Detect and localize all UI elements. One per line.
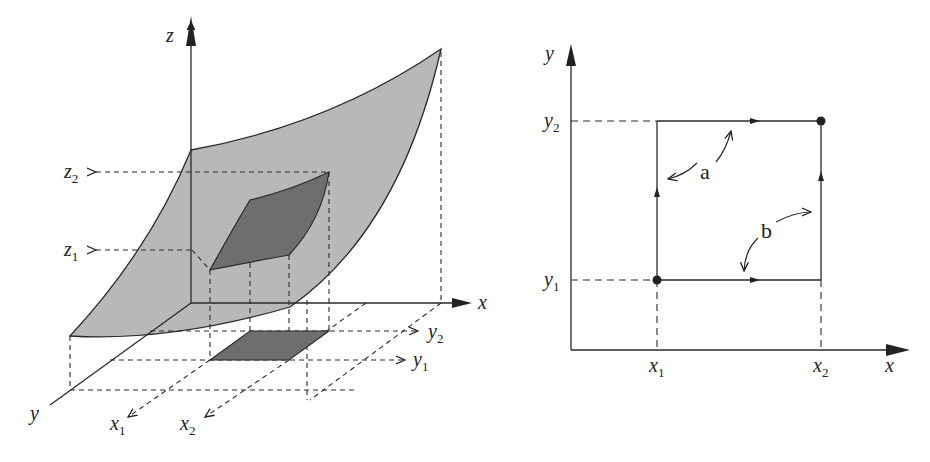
path-a-arrow-horizontal <box>750 118 760 124</box>
end-point <box>817 117 826 126</box>
y-axis-label: y <box>28 402 39 425</box>
y-axis-arrowhead <box>566 44 576 66</box>
label-y1: y1 <box>411 348 428 374</box>
x-axis-arrowhead <box>452 298 472 308</box>
label-b: b <box>761 218 772 243</box>
right-panel-xy-plane: a b y x y2 y1 x1 x2 <box>542 42 910 380</box>
label-x1: x1 <box>109 412 125 438</box>
label-y1: y1 <box>542 268 559 294</box>
label-x1: x1 <box>648 354 664 380</box>
path-b <box>657 121 821 280</box>
label-x2: x2 <box>812 354 828 380</box>
base-rectangle <box>210 331 329 360</box>
label-y2: y2 <box>542 109 559 135</box>
surface <box>70 49 441 337</box>
callout-b <box>744 212 811 271</box>
path-b-arrow-horizontal <box>750 277 760 283</box>
label-y2: y2 <box>426 320 443 346</box>
guide-lines <box>571 121 821 350</box>
label-z2: z2 <box>63 160 78 186</box>
z-axis-label: z <box>165 24 174 46</box>
x-axis-label: x <box>477 291 487 313</box>
label-z1: z1 <box>63 238 78 264</box>
x-axis-label: x <box>884 354 894 376</box>
y-axis-label: y <box>543 42 554 65</box>
start-point <box>653 276 662 285</box>
label-a: a <box>700 159 710 184</box>
path-a-arrow-vertical <box>654 187 660 197</box>
z-axis-arrowhead <box>186 16 196 46</box>
left-panel-3d-surface: z x y z2 z1 y2 y1 x1 x2 <box>28 16 487 438</box>
path-a <box>657 121 821 280</box>
figure-canvas: z x y z2 z1 y2 y1 x1 x2 <box>0 0 930 462</box>
label-x2: x2 <box>179 412 195 438</box>
path-b-arrow-vertical <box>818 171 824 181</box>
